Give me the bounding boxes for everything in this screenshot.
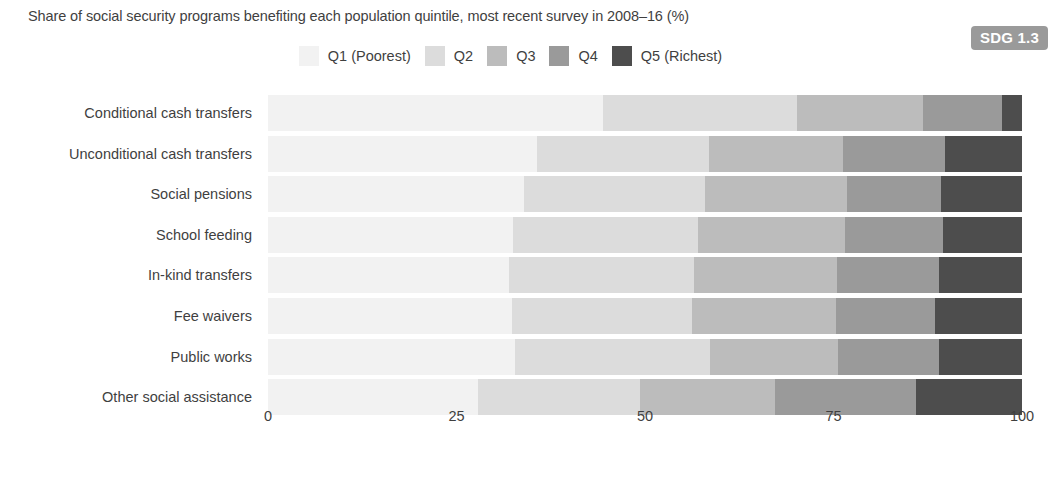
bar-segment[interactable] [268, 217, 513, 253]
bar-segment[interactable] [843, 136, 945, 172]
bar-segment[interactable] [513, 217, 698, 253]
bar-segment[interactable] [268, 176, 524, 212]
bar-segment[interactable] [509, 257, 694, 293]
x-axis-tick-label: 0 [264, 408, 272, 424]
bar-segment[interactable] [1002, 95, 1022, 131]
bar-segment[interactable] [268, 95, 603, 131]
bar-segment[interactable] [512, 298, 693, 334]
legend-swatch-icon [612, 46, 632, 66]
bar-segment[interactable] [847, 176, 941, 212]
category-label: School feeding [0, 217, 252, 253]
chart-row: Unconditional cash transfers [0, 136, 1060, 172]
category-label: Unconditional cash transfers [0, 136, 252, 172]
category-label: Social pensions [0, 176, 252, 212]
legend-item[interactable]: Q1 (Poorest) [299, 46, 411, 66]
bar-segment[interactable] [941, 176, 1022, 212]
legend-label: Q3 [516, 48, 535, 64]
category-label: Conditional cash transfers [0, 95, 252, 131]
chart-subtitle: Share of social security programs benefi… [28, 8, 689, 24]
bar-segment[interactable] [836, 298, 936, 334]
bar-segment[interactable] [845, 217, 943, 253]
x-axis: 0255075100 [268, 408, 1022, 438]
legend-label: Q1 (Poorest) [328, 48, 411, 64]
bar-segment[interactable] [524, 176, 705, 212]
bar-segment[interactable] [797, 95, 923, 131]
stacked-bar [268, 176, 1022, 212]
x-axis-tick-label: 25 [448, 408, 464, 424]
legend-item[interactable]: Q2 [425, 46, 473, 66]
bar-segment[interactable] [603, 95, 798, 131]
bar-segment[interactable] [709, 136, 843, 172]
chart-row: In-kind transfers [0, 257, 1060, 293]
x-axis-tick-label: 75 [825, 408, 841, 424]
bar-segment[interactable] [710, 339, 838, 375]
legend-item[interactable]: Q5 (Richest) [612, 46, 722, 66]
bar-segment[interactable] [268, 257, 509, 293]
bar-segment[interactable] [935, 298, 1022, 334]
legend-label: Q4 [578, 48, 597, 64]
legend-swatch-icon [549, 46, 569, 66]
bar-segment[interactable] [939, 339, 1022, 375]
bar-segment[interactable] [837, 257, 939, 293]
chart-plot-area: Conditional cash transfersUnconditional … [0, 95, 1060, 400]
bar-segment[interactable] [537, 136, 709, 172]
stacked-bar [268, 257, 1022, 293]
legend-swatch-icon [299, 46, 319, 66]
bar-segment[interactable] [268, 136, 537, 172]
x-axis-tick-label: 50 [637, 408, 653, 424]
bar-segment[interactable] [939, 257, 1022, 293]
stacked-bar [268, 298, 1022, 334]
stacked-bar [268, 136, 1022, 172]
legend-swatch-icon [487, 46, 507, 66]
bar-segment[interactable] [515, 339, 710, 375]
bar-segment[interactable] [945, 136, 1022, 172]
bar-segment[interactable] [268, 298, 512, 334]
chart-row: School feeding [0, 217, 1060, 253]
bar-segment[interactable] [268, 339, 515, 375]
chart-row: Conditional cash transfers [0, 95, 1060, 131]
legend-label: Q2 [454, 48, 473, 64]
bar-segment[interactable] [705, 176, 847, 212]
legend-item[interactable]: Q3 [487, 46, 535, 66]
chart-row: Public works [0, 339, 1060, 375]
legend-swatch-icon [425, 46, 445, 66]
bar-segment[interactable] [923, 95, 1001, 131]
category-label: Other social assistance [0, 379, 252, 415]
chart-row: Fee waivers [0, 298, 1060, 334]
chart-legend: Q1 (Poorest)Q2Q3Q4Q5 (Richest) [0, 46, 1035, 66]
category-label: Public works [0, 339, 252, 375]
stacked-bar [268, 217, 1022, 253]
stacked-bar [268, 95, 1022, 131]
stacked-bar [268, 339, 1022, 375]
bar-segment[interactable] [692, 298, 835, 334]
bar-segment[interactable] [838, 339, 939, 375]
legend-label: Q5 (Richest) [641, 48, 722, 64]
category-label: Fee waivers [0, 298, 252, 334]
category-label: In-kind transfers [0, 257, 252, 293]
x-axis-tick-label: 100 [1010, 408, 1034, 424]
bar-segment[interactable] [943, 217, 1022, 253]
bar-segment[interactable] [698, 217, 845, 253]
bar-segment[interactable] [694, 257, 837, 293]
chart-row: Social pensions [0, 176, 1060, 212]
legend-item[interactable]: Q4 [549, 46, 597, 66]
